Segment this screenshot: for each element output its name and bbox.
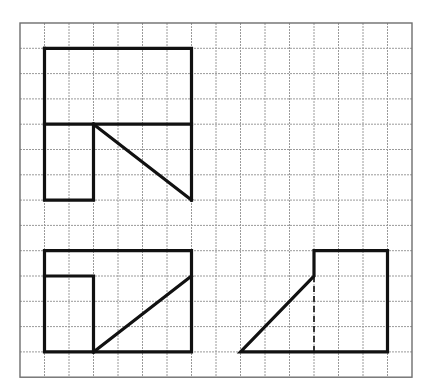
- projection-drawing: [0, 0, 424, 390]
